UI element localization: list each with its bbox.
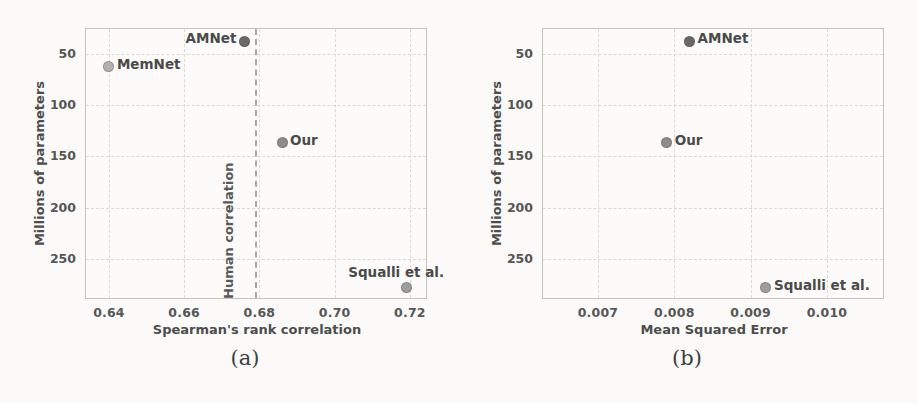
x-tick-label: 0.68: [231, 305, 287, 320]
human-correlation-label: Human correlation: [221, 185, 237, 299]
chart-b-mse-vs-params: 0.0070.0080.0090.01050100150200250Mean S…: [542, 28, 884, 299]
grid-line-vertical: [335, 29, 336, 298]
x-tick-label: 0.009: [723, 305, 779, 320]
data-point-memnet: [103, 61, 114, 72]
grid-line-horizontal: [543, 259, 883, 260]
point-label: MemNet: [117, 56, 181, 72]
grid-line-horizontal: [543, 156, 883, 157]
grid-line-vertical: [184, 29, 185, 298]
grid-line-horizontal: [543, 208, 883, 209]
data-point-our: [661, 137, 672, 148]
x-tick-label: 0.010: [799, 305, 855, 320]
point-label: Our: [675, 132, 703, 148]
x-axis-label: Mean Squared Error: [543, 322, 885, 337]
x-tick-label: 0.72: [382, 305, 438, 320]
human-correlation-line: [255, 29, 257, 298]
x-tick-label: 0.007: [570, 305, 626, 320]
y-axis-label: Millions of parameters: [489, 28, 504, 299]
point-label: Squalli et al.: [774, 277, 870, 293]
grid-line-vertical: [674, 29, 675, 298]
y-axis-label: Millions of parameters: [32, 28, 47, 299]
grid-line-horizontal: [543, 105, 883, 106]
data-point-our: [277, 137, 288, 148]
grid-line-vertical: [751, 29, 752, 298]
data-point-squalli-et-al: [401, 282, 412, 293]
grid-line-horizontal: [543, 54, 883, 55]
x-tick-label: 0.008: [646, 305, 702, 320]
caption-b: (b): [637, 346, 737, 370]
x-tick-label: 0.66: [156, 305, 212, 320]
data-point-amnet: [684, 36, 695, 47]
caption-a: (a): [195, 346, 295, 370]
grid-line-vertical: [827, 29, 828, 298]
data-point-amnet: [239, 36, 250, 47]
grid-line-vertical: [410, 29, 411, 298]
point-label: AMNet: [86, 30, 236, 46]
x-tick-label: 0.64: [81, 305, 137, 320]
chart-a-spearman-vs-params: 0.640.660.680.700.7250100150200250Spearm…: [85, 28, 427, 299]
grid-line-vertical: [259, 29, 260, 298]
point-label: Squalli et al.: [321, 264, 471, 280]
x-axis-label: Spearman's rank correlation: [86, 322, 428, 337]
figure-scanned-paper-charts: 0.640.660.680.700.7250100150200250Spearm…: [0, 0, 918, 403]
grid-line-vertical: [598, 29, 599, 298]
point-label: AMNet: [698, 30, 749, 46]
data-point-squalli-et-al: [760, 282, 771, 293]
x-tick-label: 0.70: [307, 305, 363, 320]
point-label: Our: [290, 132, 318, 148]
